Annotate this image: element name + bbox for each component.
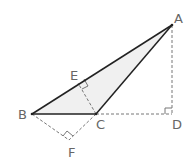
right-angle-marker-d (165, 108, 172, 114)
diagram-svg: A B C D E F (0, 0, 195, 168)
geometry-diagram: A B C D E F (0, 0, 195, 168)
label-b: B (18, 107, 27, 122)
right-angle-marker-f (63, 131, 73, 136)
label-c: C (96, 117, 105, 132)
label-a: A (174, 11, 183, 26)
vertex-a-dot (171, 24, 174, 27)
label-d: D (172, 117, 182, 132)
vertex-b-dot (31, 113, 34, 116)
vertex-c-dot (95, 113, 98, 116)
segment-cf (69, 114, 96, 140)
label-e: E (70, 68, 78, 83)
label-f: F (68, 145, 75, 160)
